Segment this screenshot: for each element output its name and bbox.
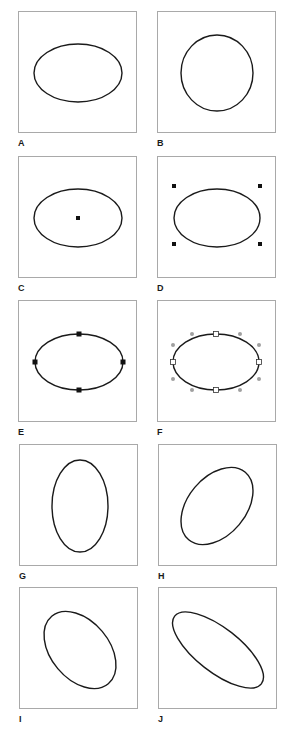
panel-a: A (18, 11, 137, 133)
direction-handle-icon (257, 343, 261, 347)
ellipse-shape (19, 301, 136, 421)
center-point-icon (76, 216, 80, 220)
ellipse-shape (158, 157, 275, 277)
panel-frame (19, 444, 138, 566)
anchor-point-icon (77, 388, 82, 393)
corner-handle-icon (172, 242, 176, 246)
ellipse-shape (19, 157, 136, 277)
panel-frame (19, 587, 138, 709)
panel-e: E (18, 300, 137, 422)
anchor-point-icon (214, 388, 219, 393)
ellipse-shape (19, 12, 136, 132)
ellipse-shape (158, 301, 275, 421)
anchor-point-icon (214, 332, 219, 337)
direction-handle-icon (257, 377, 261, 381)
panel-frame (157, 300, 276, 422)
panel-d: D (157, 156, 276, 278)
panel-label: J (158, 714, 163, 724)
ellipse-shape (20, 588, 137, 708)
panel-frame (157, 156, 276, 278)
ellipse-shape (159, 445, 276, 565)
ellipse-shape (159, 588, 276, 708)
corner-handle-icon (172, 184, 176, 188)
anchor-point-icon (77, 332, 82, 337)
direction-handle-icon (190, 388, 194, 392)
panel-i: I (19, 587, 138, 709)
circle-shape (158, 12, 275, 132)
panel-label: D (157, 283, 164, 293)
panel-b: B (157, 11, 276, 133)
corner-handle-icon (258, 184, 262, 188)
panel-f: F (157, 300, 276, 422)
direction-handle-icon (190, 332, 194, 336)
direction-handles (171, 332, 261, 392)
panel-frame (18, 11, 137, 133)
anchor-point-icon (171, 360, 176, 365)
panel-frame (18, 156, 137, 278)
anchor-point-icon (121, 360, 126, 365)
panel-label: A (18, 138, 25, 148)
panel-c: C (18, 156, 137, 278)
panel-h: H (158, 444, 277, 566)
direction-handle-icon (171, 377, 175, 381)
panel-frame (158, 587, 277, 709)
panel-g: G (19, 444, 138, 566)
panel-frame (18, 300, 137, 422)
panel-label: H (158, 571, 165, 581)
panel-label: C (18, 283, 25, 293)
anchor-point-icon (33, 360, 38, 365)
corner-handle-icon (258, 242, 262, 246)
anchor-points (171, 332, 262, 393)
panel-j: J (158, 587, 277, 709)
panel-label: I (19, 714, 22, 724)
panel-frame (157, 11, 276, 133)
anchor-point-icon (257, 360, 262, 365)
panel-label: B (157, 138, 164, 148)
panel-label: F (157, 427, 163, 437)
direction-handle-icon (238, 332, 242, 336)
panel-frame (158, 444, 277, 566)
direction-handle-icon (238, 388, 242, 392)
direction-handle-icon (171, 343, 175, 347)
ellipse-shape (20, 445, 137, 565)
panel-label: G (19, 571, 26, 581)
panel-label: E (18, 427, 24, 437)
